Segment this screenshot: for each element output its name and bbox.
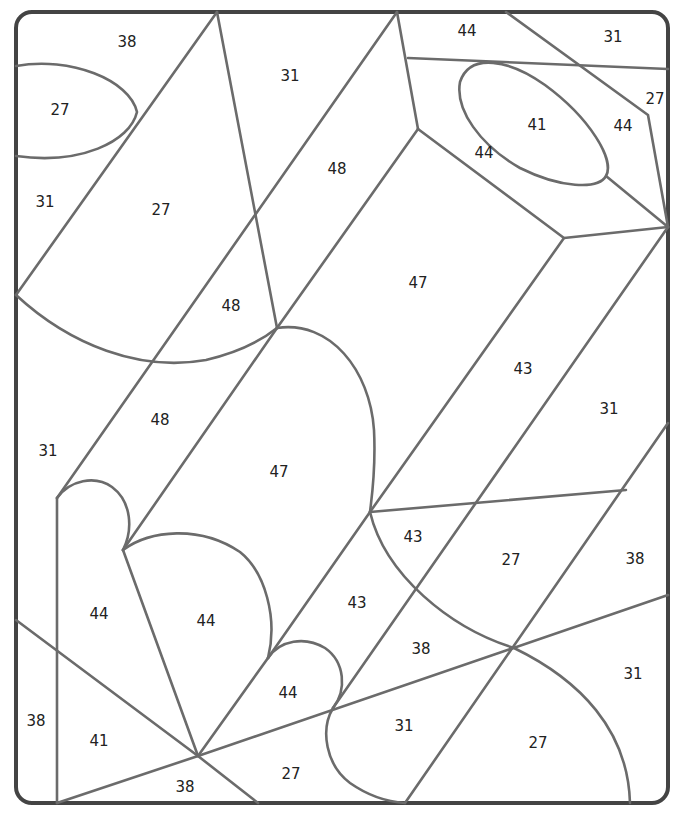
region-number-label: 31 <box>394 717 413 735</box>
region-number-label: 43 <box>513 360 532 378</box>
region-number-label: 44 <box>474 144 493 162</box>
region-number-label: 38 <box>26 712 45 730</box>
region-number-label: 38 <box>117 33 136 51</box>
region-number-label: 31 <box>623 665 642 683</box>
region-number-label: 27 <box>645 90 664 108</box>
region-number-label: 41 <box>527 116 546 134</box>
region-number-label: 44 <box>613 117 632 135</box>
region-number-label: 44 <box>278 684 297 702</box>
region-number-label: 41 <box>89 732 108 750</box>
region-number-label: 44 <box>89 605 108 623</box>
region-number-label: 48 <box>150 411 169 429</box>
region-number-label: 47 <box>269 463 288 481</box>
region-number-label: 31 <box>599 400 618 418</box>
region-number-label: 38 <box>411 640 430 658</box>
region-number-label: 38 <box>175 778 194 796</box>
region-number-label: 31 <box>35 193 54 211</box>
region-number-label: 27 <box>501 551 520 569</box>
region-number-label: 27 <box>151 201 170 219</box>
region-number-label: 27 <box>281 765 300 783</box>
region-number-label: 31 <box>603 28 622 46</box>
region-number-label: 27 <box>528 734 547 752</box>
region-number-label: 44 <box>196 612 215 630</box>
region-number-label: 31 <box>280 67 299 85</box>
region-labels: 3827314431274144443127484748433148314743… <box>26 22 664 796</box>
region-number-label: 47 <box>408 274 427 292</box>
region-number-label: 44 <box>457 22 476 40</box>
region-number-label: 38 <box>625 550 644 568</box>
region-number-label: 27 <box>50 101 69 119</box>
color-by-number-canvas: 3827314431274144443127484748433148314743… <box>0 0 684 818</box>
region-number-label: 43 <box>347 594 366 612</box>
region-number-label: 48 <box>221 297 240 315</box>
region-number-label: 48 <box>327 160 346 178</box>
region-outlines <box>16 12 668 803</box>
region-number-label: 31 <box>38 442 57 460</box>
region-number-label: 43 <box>403 528 422 546</box>
